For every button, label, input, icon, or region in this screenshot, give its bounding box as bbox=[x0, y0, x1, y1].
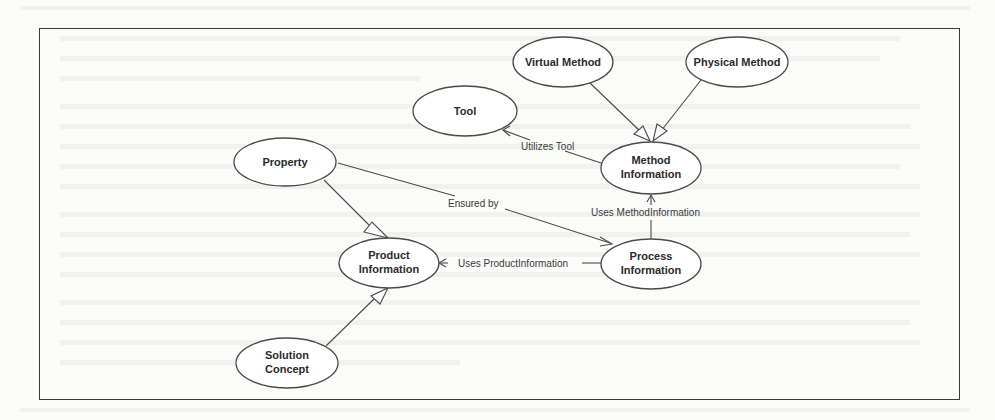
node-method-information[interactable]: Method Information bbox=[601, 142, 701, 194]
edge-label-utilizes-tool: Utilizes Tool bbox=[521, 141, 574, 152]
node-label-line2: Concept bbox=[265, 363, 309, 375]
edge-solution-to-product-information bbox=[326, 288, 388, 346]
node-label-line2: Information bbox=[621, 168, 682, 180]
node-solution-concept[interactable]: Solution Concept bbox=[236, 338, 338, 388]
node-label-line1: Method bbox=[631, 154, 670, 166]
node-label-line2: Information bbox=[359, 263, 420, 275]
edge-uses-method-information: Uses MethodInformation bbox=[591, 195, 700, 239]
node-label-line1: Product bbox=[368, 249, 410, 261]
node-product-information[interactable]: Product Information bbox=[339, 238, 439, 288]
generalization-arrowhead-icon bbox=[371, 288, 388, 304]
generalization-arrowhead-icon bbox=[364, 222, 388, 238]
node-physical-method[interactable]: Physical Method bbox=[686, 37, 788, 87]
node-label: Tool bbox=[454, 105, 476, 117]
edge-property-to-product-information bbox=[324, 180, 388, 238]
node-label: Physical Method bbox=[694, 56, 781, 68]
node-label: Virtual Method bbox=[525, 56, 601, 68]
node-virtual-method[interactable]: Virtual Method bbox=[513, 37, 613, 87]
edge-label-uses-method-information: Uses MethodInformation bbox=[591, 207, 700, 218]
edge-label-uses-product-information: Uses ProductInformation bbox=[458, 258, 568, 269]
edge-uses-product-information: Uses ProductInformation bbox=[439, 258, 601, 269]
edge-virtual-to-method-information bbox=[590, 83, 650, 141]
edge-label-ensured-by: Ensured by bbox=[448, 198, 499, 209]
node-process-information[interactable]: Process Information bbox=[601, 239, 701, 289]
concept-diagram: Utilizes Tool Ensured by Uses MethodInfo… bbox=[0, 0, 995, 420]
node-tool[interactable]: Tool bbox=[413, 86, 517, 136]
node-label: Property bbox=[262, 156, 308, 168]
node-label-line2: Information bbox=[621, 264, 682, 276]
node-label-line1: Solution bbox=[265, 349, 309, 361]
node-label-line1: Process bbox=[630, 250, 673, 262]
edge-physical-to-method-information bbox=[653, 80, 701, 141]
node-property[interactable]: Property bbox=[234, 138, 336, 186]
edge-utilizes-tool: Utilizes Tool bbox=[503, 126, 601, 163]
